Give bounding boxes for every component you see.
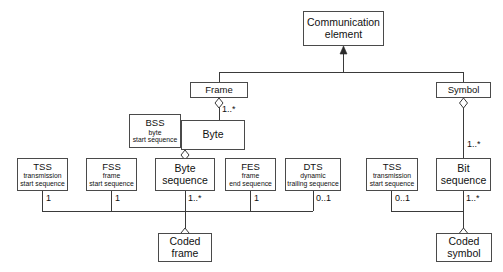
node-symbol[interactable]: Symbol <box>436 82 491 98</box>
node-subtitle: symbol <box>447 248 480 260</box>
node-tss-transmission-start-sequence-symbol[interactable]: TSS transmission start sequence <box>366 158 418 191</box>
node-title: DTS <box>304 162 323 173</box>
node-subtitle: sequence <box>162 175 208 187</box>
multiplicity-symbol-bit-sequence: 1..* <box>467 139 481 149</box>
diagram-edges <box>0 0 503 272</box>
node-communication-element[interactable]: Communication element <box>303 11 384 46</box>
node-byte[interactable]: Byte <box>181 120 245 150</box>
node-title: FES <box>241 162 259 173</box>
node-subtitle: transmission start sequence <box>370 172 415 187</box>
node-title: Coded <box>170 236 201 248</box>
multiplicity-dts: 0..1 <box>316 193 331 203</box>
node-title: BSS <box>145 118 164 129</box>
node-coded-frame[interactable]: Coded frame <box>158 233 212 262</box>
node-title: Byte <box>202 129 223 141</box>
node-title: TSS <box>383 162 401 173</box>
node-byte-sequence[interactable]: Byte sequence <box>155 158 215 191</box>
node-subtitle: frame <box>172 248 199 260</box>
node-title: TSS <box>33 162 51 173</box>
node-subtitle: byte start sequence <box>133 129 178 144</box>
generalization-arrowhead <box>340 46 347 54</box>
multiplicity-fes: 1 <box>254 193 259 203</box>
multiplicity-bit-sequence: 1..* <box>466 193 480 203</box>
node-dts-dynamic-trailing-sequence[interactable]: DTS dynamic trailing sequence <box>285 158 341 191</box>
node-fes-frame-end-sequence[interactable]: FES frame end sequence <box>225 158 276 191</box>
node-subtitle: frame start sequence <box>89 172 134 187</box>
node-title: Byte <box>174 163 195 175</box>
multiplicity-tss-symbol: 0..1 <box>395 193 410 203</box>
node-title: Communication <box>307 17 380 29</box>
aggregation-diamond-symbol <box>460 98 468 108</box>
node-bss-byte-start-sequence[interactable]: BSS byte start sequence <box>129 114 181 148</box>
node-frame[interactable]: Frame <box>190 82 248 98</box>
node-title: FSS <box>102 162 120 173</box>
node-subtitle: transmission start sequence <box>20 172 65 187</box>
node-subtitle: element <box>325 29 362 41</box>
node-coded-symbol[interactable]: Coded symbol <box>436 233 492 262</box>
multiplicity-tss-frame: 1 <box>46 193 51 203</box>
node-title: Frame <box>205 85 232 96</box>
node-fss-frame-start-sequence[interactable]: FSS frame start sequence <box>86 158 137 191</box>
multiplicity-frame-byte: 1..* <box>222 104 236 114</box>
multiplicity-fss: 1 <box>115 193 120 203</box>
node-bit-sequence[interactable]: Bit sequence <box>436 158 491 191</box>
multiplicity-byte-sequence: 1..* <box>188 193 202 203</box>
node-tss-transmission-start-sequence-frame[interactable]: TSS transmission start sequence <box>17 158 68 191</box>
node-title: Bit <box>457 163 469 175</box>
uml-diagram-canvas: Communication element Frame Symbol BSS b… <box>0 0 503 272</box>
node-subtitle: dynamic trailing sequence <box>287 172 338 187</box>
node-subtitle: sequence <box>441 175 487 187</box>
node-subtitle: frame end sequence <box>229 172 272 187</box>
node-title: Coded <box>449 236 480 248</box>
node-title: Symbol <box>448 85 480 96</box>
